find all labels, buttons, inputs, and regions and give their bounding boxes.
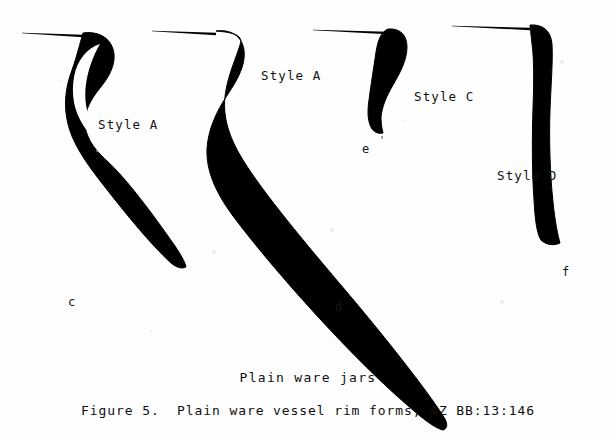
scan-speckle [404,120,406,122]
scan-speckle [560,60,564,64]
vessel-profile-drawing [0,0,616,437]
scan-speckle [150,330,152,332]
scan-speckle [212,250,216,254]
scan-speckle [500,300,504,304]
scan-speckle [60,80,62,82]
scan-speckle [330,228,334,232]
scan-speckle [96,150,98,152]
figure-plate: Style A Style A Style C Style D c d e f … [0,0,616,437]
